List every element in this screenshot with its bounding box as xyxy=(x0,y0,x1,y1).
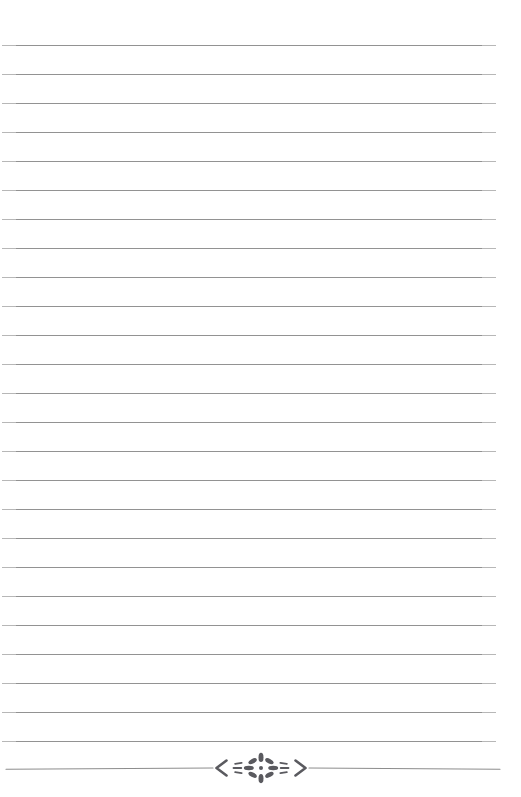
writing-line-slot[interactable] xyxy=(2,454,496,482)
writing-line-slot[interactable] xyxy=(2,106,496,134)
writing-line-slot[interactable] xyxy=(2,19,496,47)
floral-divider-ornament xyxy=(0,746,521,790)
writing-line-slot[interactable] xyxy=(2,251,496,279)
writing-line-slot[interactable] xyxy=(2,715,496,743)
rule-line xyxy=(2,712,496,713)
rule-line xyxy=(2,654,496,655)
rule-line xyxy=(2,335,496,336)
lined-page xyxy=(0,0,521,797)
rule-line xyxy=(2,567,496,568)
writing-line-slot[interactable] xyxy=(2,628,496,656)
rule-line xyxy=(2,190,496,191)
rule-line xyxy=(2,103,496,104)
rule-line xyxy=(2,74,496,75)
rule-line xyxy=(2,219,496,220)
rule-line xyxy=(2,741,496,742)
writing-line-slot[interactable] xyxy=(2,657,496,685)
writing-line-slot[interactable] xyxy=(2,193,496,221)
rule-line xyxy=(2,422,496,423)
writing-line-slot[interactable] xyxy=(2,280,496,308)
rule-line xyxy=(2,161,496,162)
writing-line-slot[interactable] xyxy=(2,309,496,337)
rule-line xyxy=(2,683,496,684)
rule-line xyxy=(2,509,496,510)
writing-line-slot[interactable] xyxy=(2,541,496,569)
writing-line-slot[interactable] xyxy=(2,483,496,511)
rule-line xyxy=(2,364,496,365)
writing-line-slot[interactable] xyxy=(2,222,496,250)
rule-line xyxy=(2,596,496,597)
rule-line xyxy=(2,45,496,46)
writing-line-slot[interactable] xyxy=(2,367,496,395)
writing-line-slot[interactable] xyxy=(2,425,496,453)
rule-line xyxy=(2,538,496,539)
rule-line xyxy=(2,248,496,249)
rule-line xyxy=(2,306,496,307)
writing-line-slot[interactable] xyxy=(2,599,496,627)
writing-line-slot[interactable] xyxy=(2,135,496,163)
ornament-svg xyxy=(0,746,521,790)
rule-line xyxy=(2,132,496,133)
writing-line-slot[interactable] xyxy=(2,164,496,192)
rule-line xyxy=(2,393,496,394)
ruled-lines-area xyxy=(0,0,521,760)
writing-line-slot[interactable] xyxy=(2,570,496,598)
writing-line-slot[interactable] xyxy=(2,512,496,540)
writing-line-slot[interactable] xyxy=(2,77,496,105)
rule-line xyxy=(2,625,496,626)
right-angle-bracket-icon xyxy=(296,761,306,776)
starburst-motif-icon xyxy=(233,753,290,783)
rule-line xyxy=(2,480,496,481)
ornament-rule-right xyxy=(309,768,500,769)
writing-line-slot[interactable] xyxy=(2,686,496,714)
rule-line xyxy=(2,277,496,278)
ornament-rule-left xyxy=(6,768,213,769)
writing-line-slot[interactable] xyxy=(2,396,496,424)
writing-line-slot[interactable] xyxy=(2,48,496,76)
writing-line-slot[interactable] xyxy=(2,338,496,366)
left-angle-bracket-icon xyxy=(217,761,227,776)
rule-line xyxy=(2,451,496,452)
